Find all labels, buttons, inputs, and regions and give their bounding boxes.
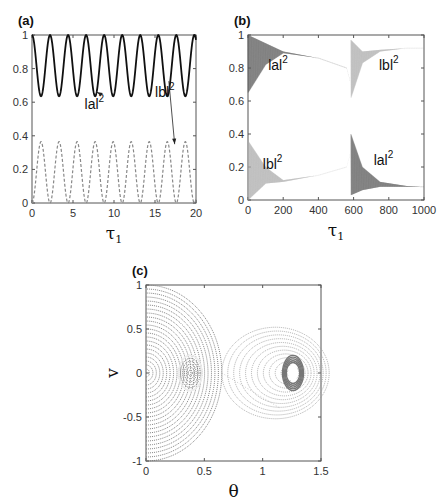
x-axis-label: τ1 (328, 220, 344, 243)
panel-label: (b) (234, 13, 251, 28)
y-tick-label: 0.8 (229, 62, 244, 74)
right-orbit-region (222, 327, 329, 419)
left-orbit-region (146, 285, 222, 461)
x-tick-label: 600 (344, 204, 362, 216)
x-tick-label: 20 (190, 207, 202, 219)
annotation-superscript: 2 (277, 153, 283, 164)
x-tick-label: 1.5 (313, 465, 328, 477)
y-tick-label: 0.4 (13, 130, 28, 142)
panel-c: 00.511.5-1-0.500.51(c)θv (102, 263, 329, 501)
x-axis-label: θ (228, 481, 238, 501)
panel-a: 0510152000.20.40.60.81(a)τ1lal2lbl2 (13, 13, 202, 246)
y-tick-label: 0.2 (229, 161, 244, 173)
y-tick-label: 1 (22, 29, 28, 41)
orbit-center-gap (288, 364, 297, 382)
x-tick-label: 1 (260, 465, 266, 477)
y-tick-label: 0.6 (229, 95, 244, 107)
x-tick-label: 0 (29, 207, 35, 219)
x-axis-label: τ1 (106, 223, 122, 246)
x-tick-label: 10 (108, 207, 120, 219)
y-tick-label: 0.8 (13, 63, 28, 75)
annotation-b-squared-right: lbl2 (379, 54, 399, 73)
x-tick-label: 400 (309, 204, 327, 216)
annotation-arrowhead (172, 138, 176, 144)
y-tick-label: 0 (22, 197, 28, 209)
series-band-0 (248, 35, 350, 93)
x-tick-label: 0 (245, 204, 251, 216)
orbit (146, 337, 177, 409)
x-tick-label: 1000 (412, 204, 436, 216)
panel-label: (a) (18, 13, 34, 28)
panel-label: (c) (132, 263, 148, 278)
plot-frame (32, 35, 196, 203)
y-tick-label: 0.4 (229, 128, 244, 140)
annotation-a-squared: lal2 (85, 93, 105, 112)
annotation-superscript: 2 (393, 54, 399, 65)
annotation-b-squared-left: lbl2 (263, 153, 283, 172)
series-b-squared-line (32, 142, 196, 203)
x-tick-label: 200 (274, 204, 292, 216)
y-tick-label: 1 (136, 279, 142, 291)
y-tick-label: 0 (136, 367, 142, 379)
orbit (234, 335, 323, 411)
x-tick-label: 15 (149, 207, 161, 219)
annotation-superscript: 2 (282, 54, 288, 65)
x-tick-label: 0.5 (197, 465, 212, 477)
x-tick-label: 800 (380, 204, 398, 216)
y-tick-label: 1 (238, 29, 244, 41)
x-axis-label-subscript: 1 (337, 230, 344, 243)
y-tick-label: -1 (132, 455, 142, 467)
orbit (246, 342, 318, 403)
y-tick-label: 0 (238, 194, 244, 206)
figure: 0510152000.20.40.60.81(a)τ1lal2lbl2 0200… (0, 0, 448, 502)
y-tick-label: 0.5 (127, 323, 142, 335)
annotation-a-squared-left: lal2 (268, 54, 288, 73)
series-band-oscillation (248, 35, 350, 93)
annotation-a-squared-right: lal2 (374, 149, 394, 168)
annotation-superscript: 2 (388, 149, 394, 160)
x-axis-label-subscript: 1 (115, 233, 122, 246)
orbit (146, 349, 167, 397)
x-tick-label: 0 (143, 465, 149, 477)
x-tick-label: 5 (70, 207, 76, 219)
y-tick-label: 0.6 (13, 96, 28, 108)
y-axis-label: v (102, 368, 122, 379)
panel-b: 0200400600800100000.20.40.60.81(b)τ1lal2… (229, 13, 437, 243)
y-tick-label: -0.5 (123, 411, 142, 423)
y-tick-label: 0.2 (13, 163, 28, 175)
annotation-b-squared: lbl2 (155, 81, 175, 100)
orbit (146, 325, 187, 421)
